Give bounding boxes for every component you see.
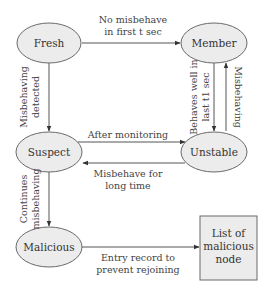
edge-member-to-unstable-label-line-2: last t1 sec bbox=[200, 72, 211, 121]
edge-member-to-unstable-label-line-1: Behaves well in bbox=[188, 59, 199, 134]
edge-suspect-to-malicious-label-line-1: Continues bbox=[18, 175, 29, 224]
node-malicious-list-label-line-2: malicious bbox=[203, 240, 254, 252]
edge-suspect-to-malicious-label-line-2: misbehaving bbox=[30, 168, 41, 229]
node-fresh-label: Fresh bbox=[34, 37, 65, 49]
node-malicious-list: List of malicious node bbox=[200, 216, 257, 280]
edge-suspect-to-malicious-label: Continues misbehaving bbox=[18, 168, 41, 229]
edge-unstable-to-suspect-label-line-2: long time bbox=[105, 180, 151, 191]
node-fresh: Fresh bbox=[17, 23, 81, 63]
edge-fresh-to-suspect-label-line-1: Misbehaving bbox=[18, 66, 29, 128]
node-malicious: Malicious bbox=[16, 227, 82, 267]
edge-fresh-to-member-label-line-2: in first t sec bbox=[104, 26, 161, 37]
node-member-label: Member bbox=[192, 37, 238, 49]
edge-suspect-to-unstable-label: After monitoring bbox=[87, 129, 168, 140]
node-malicious-list-label-line-1: List of bbox=[212, 227, 247, 239]
edge-unstable-to-member-label: Misbehaving bbox=[233, 66, 244, 128]
edge-unstable-to-suspect-label-line-1: Misbehave for bbox=[94, 168, 163, 179]
edge-unstable-to-member-label-line-1: Misbehaving bbox=[233, 66, 244, 128]
edge-member-to-unstable-label: Behaves well in last t1 sec bbox=[188, 59, 211, 134]
node-malicious-list-label-line-3: node bbox=[215, 253, 241, 265]
edge-malicious-to-list-label-line-2: prevent rejoining bbox=[96, 264, 179, 275]
edge-malicious-to-list-label-line-1: Entry record to bbox=[101, 252, 175, 263]
edge-fresh-to-member-label-line-1: No misbehave bbox=[99, 14, 168, 25]
node-malicious-label: Malicious bbox=[23, 241, 74, 253]
edge-fresh-to-suspect-label-line-2: detected bbox=[30, 76, 41, 118]
node-member: Member bbox=[181, 23, 247, 63]
node-unstable: Unstable bbox=[181, 132, 247, 172]
node-unstable-label: Unstable bbox=[190, 146, 238, 158]
state-diagram: Fresh Member Suspect Unstable Malicious … bbox=[0, 0, 270, 290]
node-suspect: Suspect bbox=[16, 132, 82, 172]
edge-fresh-to-suspect-label: Misbehaving detected bbox=[18, 66, 41, 128]
node-suspect-label: Suspect bbox=[28, 146, 71, 158]
